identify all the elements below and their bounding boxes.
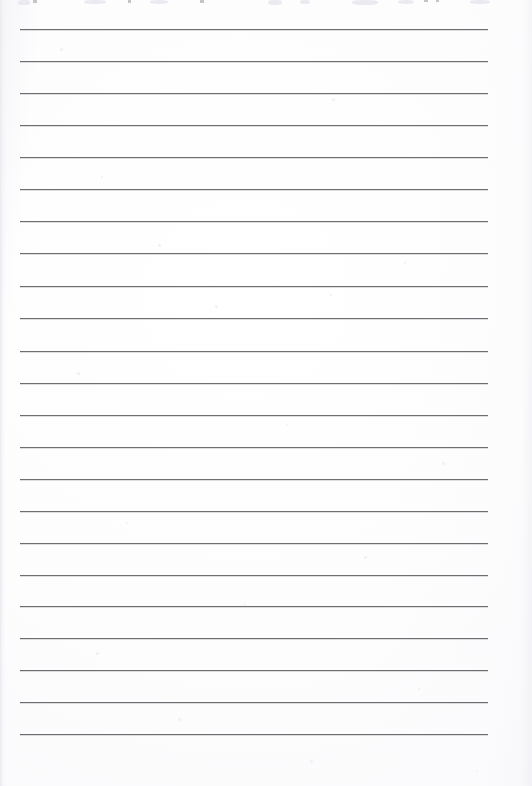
ruled-line [20, 253, 488, 254]
ruled-line [20, 702, 488, 703]
ruled-line [20, 638, 488, 639]
ruled-line [20, 286, 488, 287]
ruled-line [20, 93, 488, 94]
ruled-line [20, 479, 488, 480]
ruled-line [20, 511, 488, 512]
ruled-line [20, 543, 488, 544]
ruled-line [20, 29, 488, 30]
ruled-line [20, 221, 488, 222]
ruled-line [20, 157, 488, 158]
ruled-line [20, 61, 488, 62]
ruled-line [20, 189, 488, 190]
ruled-line [20, 125, 488, 126]
ruled-line [20, 318, 488, 319]
scanned-page [0, 0, 532, 786]
ruled-line [20, 415, 488, 416]
ruled-line [20, 383, 488, 384]
ruled-line [20, 734, 488, 735]
ruled-line [20, 351, 488, 352]
ruled-line [20, 575, 488, 576]
ruled-line [20, 606, 488, 607]
ruled-line [20, 447, 488, 448]
ruled-lines-group [0, 0, 532, 786]
ruled-line [20, 670, 488, 671]
